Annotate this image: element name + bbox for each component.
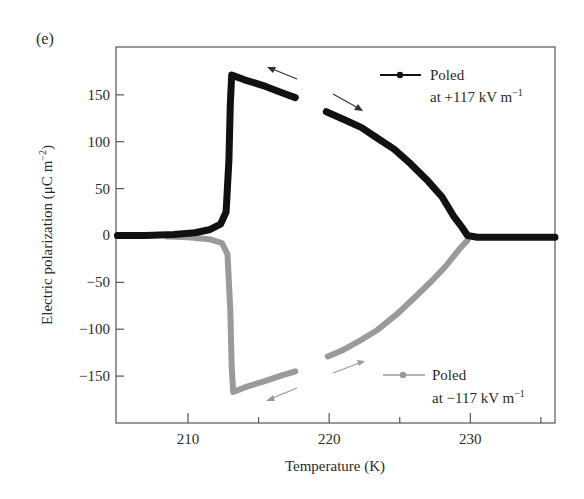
x-tick-label: 220 — [318, 431, 341, 447]
direction-arrows — [266, 67, 365, 401]
x-axis-title: Temperature (K) — [285, 458, 385, 475]
y-tick-label: 150 — [88, 87, 111, 103]
legend-marker-black-icon — [397, 72, 403, 78]
legend-item-positive: Poled at +117 kV m−1 — [380, 67, 523, 105]
legend-label-line2: at +117 kV m−1 — [430, 87, 523, 105]
y-axis-title: Electric polarization (μC m−2) — [37, 145, 56, 325]
legend-label-line1: Poled — [432, 367, 467, 383]
legend-marker-gray-icon — [400, 372, 406, 378]
series-positive-poled-line — [117, 75, 295, 235]
series-negative-poled-line — [167, 236, 295, 392]
legend-item-negative: Poled at −117 kV m−1 — [383, 367, 525, 406]
legend-label-line1: Poled — [430, 67, 465, 83]
y-tick-label: −100 — [79, 321, 110, 337]
y-tick-label: 100 — [88, 134, 111, 150]
x-axis-ticks: 210220230 — [177, 413, 541, 447]
arrow-cooling-gray-icon — [266, 388, 297, 401]
x-tick-label: 230 — [459, 431, 482, 447]
y-tick-label: 50 — [95, 181, 110, 197]
y-tick-label: −50 — [87, 274, 110, 290]
panel-label: (e) — [36, 30, 54, 48]
x-tick-label: 210 — [177, 431, 200, 447]
y-tick-label: 0 — [103, 227, 111, 243]
series-positive-poled-line — [326, 112, 555, 238]
data-series — [117, 75, 555, 392]
arrow-heating-gray-icon — [333, 360, 365, 373]
y-tick-label: −150 — [79, 368, 110, 384]
chart: (e) 150100500−50−100−150 210220230 Tempe… — [0, 0, 584, 499]
arrow-cooling-black-icon — [267, 67, 297, 79]
legend-label-line2: at −117 kV m−1 — [432, 388, 525, 406]
arrow-heating-black-icon — [333, 94, 363, 111]
series-negative-poled-line — [328, 240, 468, 356]
